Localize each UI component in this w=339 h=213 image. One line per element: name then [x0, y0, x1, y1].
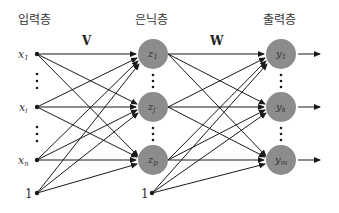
edges-v — [37, 54, 139, 193]
neural-network-diagram: 입력층 은닉층 출력층 V W — [0, 0, 339, 213]
ellipsis-dot — [36, 126, 39, 129]
ellipsis-dot — [152, 80, 155, 83]
output-arrows — [298, 54, 320, 160]
ellipsis-dot — [280, 127, 283, 130]
output-layer-title: 출력층 — [263, 13, 296, 27]
ellipsis-dot — [36, 73, 39, 76]
ellipsis-dot — [280, 133, 283, 136]
ellipsis-dot — [36, 133, 39, 136]
ellipsis-dot — [152, 127, 155, 130]
input-bias-node — [35, 191, 39, 195]
ellipsis-dot — [280, 86, 283, 89]
ellipsis-dot — [36, 80, 39, 83]
ellipsis-dot — [152, 139, 155, 142]
input-layer-title: 입력층 — [18, 13, 51, 27]
input-node-1 — [35, 52, 39, 56]
ellipsis-dot — [36, 140, 39, 143]
input-label-n: xn — [18, 154, 29, 168]
ellipsis-dot — [152, 74, 155, 77]
hidden-layer-title: 은닉층 — [135, 13, 168, 27]
ellipsis-dot — [280, 80, 283, 83]
ellipsis-dot — [280, 74, 283, 77]
ellipsis-dot — [280, 139, 283, 142]
hidden-bias-label: 1 — [141, 187, 149, 201]
input-label-1: x1 — [18, 48, 29, 62]
weight-w-label: W — [209, 34, 224, 48]
input-node-n — [35, 158, 39, 162]
weight-v-label: V — [81, 34, 92, 48]
hidden-bias-node — [150, 191, 154, 195]
input-bias-label: 1 — [25, 187, 33, 201]
ellipsis-dot — [152, 86, 155, 89]
input-label-i: xi — [19, 101, 27, 115]
edges-w — [152, 54, 267, 193]
input-layer: x1 xi xn 1 — [18, 48, 39, 201]
output-layer: y1 yk ym — [266, 39, 296, 175]
ellipsis-dot — [36, 87, 39, 90]
ellipsis-dot — [152, 133, 155, 136]
hidden-layer: z1 zj zp 1 — [138, 39, 168, 201]
input-node-i — [35, 105, 39, 109]
